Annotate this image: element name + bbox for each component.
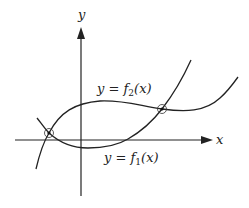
x-axis-label: x xyxy=(216,132,224,147)
f2-label: y = f2(x) xyxy=(96,81,152,98)
x-axis-arrow-icon xyxy=(201,136,213,144)
y-axis-label: y xyxy=(77,7,86,22)
y-axis-arrow-icon xyxy=(77,27,85,39)
left-intersection-marker xyxy=(45,129,54,138)
graph-canvas: y x y = f2(x) y = f1(x) xyxy=(0,0,249,208)
f1-label: y = f1(x) xyxy=(103,150,159,167)
curve-f1 xyxy=(37,60,191,148)
